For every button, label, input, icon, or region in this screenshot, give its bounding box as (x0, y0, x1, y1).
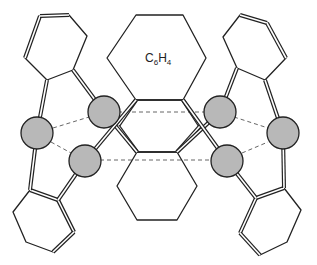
diagram-canvas: C6H4 (0, 0, 317, 265)
label-sub-4: 4 (167, 58, 171, 67)
atoms (21, 96, 299, 177)
c6h4-label: C6H4 (145, 51, 171, 67)
atom-left-upper-inner (88, 96, 120, 128)
bottom-hexagon (117, 152, 197, 220)
atom-right-lower-inner (211, 145, 243, 177)
atom-left-outer (21, 117, 53, 149)
atom-right-outer (267, 117, 299, 149)
atom-left-lower-inner (69, 145, 101, 177)
atom-right-upper-inner (204, 96, 236, 128)
label-c: C (145, 51, 154, 65)
label-h: H (158, 51, 167, 65)
molecule-drawing (0, 0, 317, 265)
